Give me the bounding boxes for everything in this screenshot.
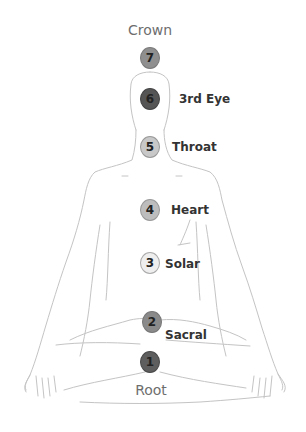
chakra-3-solar-marker: 3 <box>140 252 160 274</box>
chakra-4-label: Heart <box>171 203 209 217</box>
chakra-number: 3 <box>146 256 154 270</box>
chakra-1-root-marker: 1 <box>140 351 160 373</box>
crown-label: Crown <box>128 22 172 38</box>
chakra-5-throat-marker: 5 <box>140 136 160 158</box>
chakra-number: 2 <box>148 315 156 329</box>
chakra-number: 7 <box>146 51 154 65</box>
chakra-2-sacral-marker: 2 <box>142 311 162 333</box>
root-label: Root <box>135 382 167 398</box>
chakra-6-third-eye-marker: 6 <box>140 88 160 110</box>
chakra-7-crown-marker: 7 <box>140 47 160 69</box>
chakra-6-label: 3rd Eye <box>179 92 230 106</box>
chakra-4-heart-marker: 4 <box>140 199 160 221</box>
chakra-number: 4 <box>146 203 154 217</box>
chakra-number: 5 <box>146 140 154 154</box>
chakra-number: 1 <box>146 355 154 369</box>
chakra-number: 6 <box>146 92 154 106</box>
chakra-2-label: Sacral <box>165 328 207 342</box>
chakra-5-label: Throat <box>172 140 217 154</box>
chakra-3-label: Solar <box>165 257 200 271</box>
